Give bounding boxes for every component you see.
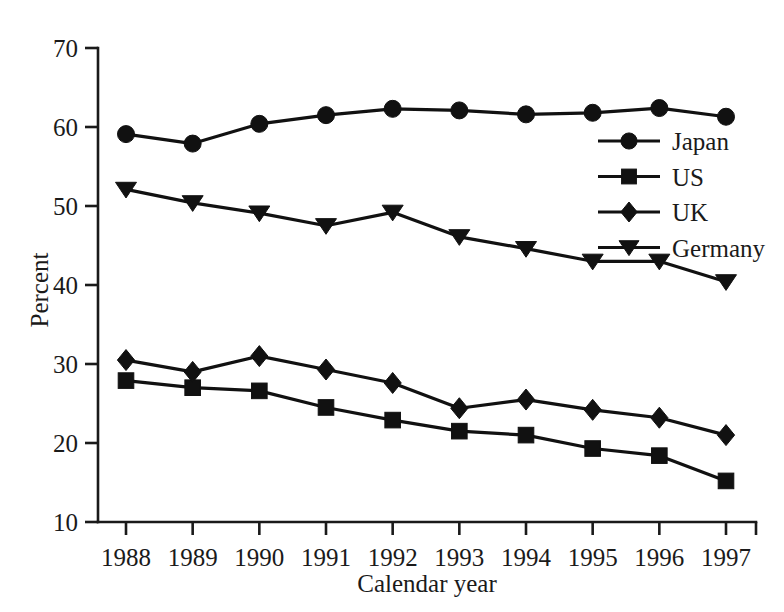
x-tick-label: 1993: [434, 544, 484, 571]
data-point-square-marker: [585, 441, 601, 457]
data-point-diamond-marker: [717, 425, 734, 446]
legend-item-uk[interactable]: UK: [598, 199, 708, 226]
data-point-circle-marker: [251, 115, 268, 132]
x-axis-tick-labels: 1988198919901991199219931994199519961997: [101, 544, 751, 571]
legend-item-us[interactable]: US: [598, 164, 704, 191]
x-tick-label: 1992: [368, 544, 418, 571]
data-point-diamond-marker: [251, 346, 268, 367]
y-tick-label: 30: [53, 351, 78, 378]
y-tick-label: 10: [53, 509, 78, 536]
legend-item-germany[interactable]: Germany: [598, 235, 766, 262]
y-tick-label: 40: [53, 272, 78, 299]
data-point-diamond-marker: [517, 389, 534, 410]
chart-canvas: 70605040302010 1988198919901991199219931…: [0, 0, 784, 612]
data-point-circle-marker: [718, 108, 735, 125]
legend-item-label: Japan: [672, 128, 729, 155]
data-point-square-marker: [118, 373, 134, 389]
x-tick-label: 1995: [568, 544, 618, 571]
data-point-circle-marker: [651, 100, 668, 117]
x-tick-label: 1988: [101, 544, 151, 571]
legend-item-label: US: [672, 164, 704, 191]
x-tick-label: 1994: [501, 544, 552, 571]
data-point-triangle-down-marker: [316, 219, 337, 235]
data-point-square-marker: [252, 383, 268, 399]
data-point-diamond-marker: [451, 398, 468, 419]
y-tick-label: 20: [53, 430, 78, 457]
data-point-triangle-down-marker: [716, 275, 737, 291]
y-tick-marks: [85, 48, 98, 522]
data-point-square-marker: [718, 473, 734, 489]
series-germany: [116, 182, 737, 290]
legend-item-japan[interactable]: Japan: [598, 128, 729, 155]
data-point-diamond-marker: [621, 202, 637, 222]
data-point-circle-marker: [118, 126, 135, 143]
data-point-circle-marker: [384, 100, 401, 117]
data-point-square-marker: [518, 427, 534, 443]
data-point-square-marker: [652, 448, 668, 464]
series-line: [126, 189, 726, 281]
legend-item-label: UK: [672, 199, 708, 226]
x-tick-label: 1990: [234, 544, 284, 571]
data-point-diamond-marker: [384, 372, 401, 393]
x-tick-marks: [126, 522, 756, 535]
data-point-circle-marker: [621, 133, 637, 149]
legend-item-label: Germany: [672, 235, 766, 262]
y-axis-title: Percent: [26, 252, 53, 327]
y-tick-label: 50: [53, 193, 78, 220]
x-tick-label: 1996: [634, 544, 684, 571]
data-point-diamond-marker: [584, 399, 601, 420]
data-point-circle-marker: [451, 102, 468, 119]
series-us: [118, 373, 734, 489]
data-point-square-marker: [452, 423, 468, 439]
x-axis-title: Calendar year: [357, 570, 497, 597]
data-point-circle-marker: [184, 135, 201, 152]
line-chart: 70605040302010 1988198919901991199219931…: [0, 0, 784, 612]
data-point-circle-marker: [318, 107, 335, 124]
x-tick-label: 1991: [301, 544, 351, 571]
y-axis-tick-labels: 70605040302010: [53, 35, 78, 536]
data-point-square-marker: [385, 412, 401, 428]
data-point-diamond-marker: [651, 407, 668, 428]
x-tick-label: 1989: [168, 544, 218, 571]
data-point-diamond-marker: [317, 359, 334, 380]
data-point-diamond-marker: [184, 361, 201, 382]
y-tick-label: 60: [53, 114, 78, 141]
y-tick-label: 70: [53, 35, 78, 62]
x-tick-label: 1997: [701, 544, 751, 571]
data-point-circle-marker: [584, 104, 601, 121]
data-point-circle-marker: [518, 106, 535, 123]
series-uk: [117, 346, 734, 446]
series-layer: [116, 100, 737, 489]
data-point-diamond-marker: [117, 350, 134, 371]
series-japan: [118, 100, 735, 153]
chart-legend: JapanUSUKGermany: [598, 128, 766, 262]
series-line: [126, 356, 726, 435]
data-point-square-marker: [318, 400, 334, 416]
data-point-square-marker: [622, 169, 637, 184]
